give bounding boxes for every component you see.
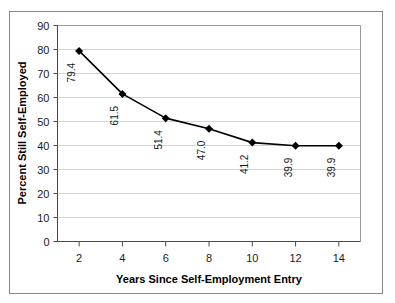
x-tick-label: 10: [246, 252, 258, 264]
x-tick-label: 6: [163, 252, 169, 264]
x-axis-title: Years Since Self-Employment Entry: [116, 273, 303, 285]
data-point-label: 79.4: [66, 63, 77, 83]
y-axis-title: Percent Still Self-Employed: [16, 61, 28, 204]
y-tick-label: 10: [37, 212, 49, 224]
chart-figure: 0102030405060708090 2468101214 79.461.55…: [0, 0, 395, 303]
plot-area-background: [58, 26, 361, 242]
data-point-label: 39.9: [283, 157, 294, 177]
y-tick-label: 80: [37, 44, 49, 56]
data-point-label: 61.5: [109, 105, 120, 125]
line-chart-canvas: 0102030405060708090 2468101214 79.461.55…: [0, 0, 395, 303]
y-tick-label: 70: [37, 68, 49, 80]
y-tick-label: 50: [37, 116, 49, 128]
x-tick-label: 2: [76, 252, 82, 264]
x-tick-label: 12: [289, 252, 301, 264]
x-tick-label: 8: [206, 252, 212, 264]
y-tick-label: 0: [43, 236, 49, 248]
y-tick-label: 20: [37, 188, 49, 200]
y-tick-label: 40: [37, 140, 49, 152]
x-tick-label: 4: [119, 252, 125, 264]
data-point-label: 41.2: [239, 154, 250, 174]
data-point-label: 47.0: [196, 140, 207, 160]
data-point-label: 39.9: [326, 157, 337, 177]
y-tick-label: 60: [37, 92, 49, 104]
y-tick-label: 90: [37, 20, 49, 32]
y-tick-label: 30: [37, 164, 49, 176]
data-point-label: 51.4: [153, 130, 164, 150]
x-tick-label: 14: [333, 252, 345, 264]
